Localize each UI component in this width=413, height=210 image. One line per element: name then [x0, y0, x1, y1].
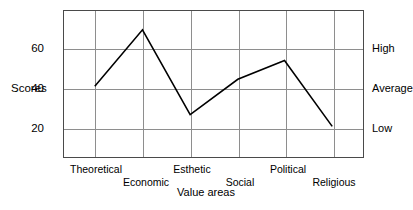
x-axis-label-esthetic: Esthetic [173, 163, 210, 175]
y-axis-right-tick-average: Average [372, 82, 413, 94]
x-axis-label-theoretical: Theoretical [70, 163, 122, 175]
x-axis-title: Value areas [0, 186, 412, 198]
data-series-line [64, 11, 363, 157]
y-axis-right-tick-high: High [372, 42, 395, 54]
y-axis-tick-60: 60 [31, 42, 44, 54]
y-axis-tick-20: 20 [31, 122, 44, 134]
x-axis-label-political: Political [270, 163, 306, 175]
y-axis-title: Scores [11, 82, 47, 94]
y-axis-right-tick-low: Low [372, 122, 392, 134]
plot-area [63, 10, 364, 158]
